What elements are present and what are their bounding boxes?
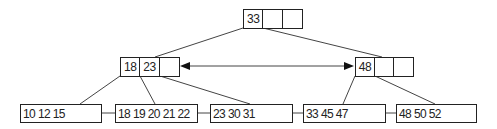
arrowhead-right-icon — [344, 62, 354, 70]
leaf-node-2: 18 19 20 21 22 — [115, 104, 198, 123]
leaf-node-4: 33 45 47 — [303, 104, 386, 123]
edge-left-leaf1 — [80, 76, 120, 104]
edge-right-leaf4 — [343, 76, 355, 104]
leaf-node-5: 48 50 52 — [396, 104, 477, 123]
root-key-3 — [283, 10, 302, 28]
edge-root-right — [263, 28, 382, 57]
internal-right-key-2 — [375, 58, 394, 76]
internal-right-key-3 — [394, 58, 413, 76]
internal-left-key-2: 23 — [140, 58, 159, 76]
arrowhead-left-icon — [180, 62, 190, 70]
edge-left-leaf3 — [160, 76, 250, 104]
internal-right-key-1: 48 — [356, 58, 375, 76]
internal-node-right: 48 — [355, 57, 414, 77]
leaf-node-1: 10 12 15 — [20, 104, 102, 123]
internal-node-left: 18 23 — [120, 57, 180, 77]
root-key-2 — [263, 10, 282, 28]
edge-right-leaf5 — [375, 76, 435, 104]
internal-left-key-3 — [160, 58, 179, 76]
btree-diagram: 33 18 23 48 10 12 15 18 19 20 21 22 23 3… — [0, 0, 497, 129]
edge-left-leaf2 — [140, 76, 155, 104]
root-key-1: 33 — [244, 10, 263, 28]
leaf-node-3: 23 30 31 — [210, 104, 293, 123]
edge-root-left — [155, 28, 243, 57]
root-node: 33 — [243, 9, 303, 29]
internal-left-key-1: 18 — [121, 58, 140, 76]
